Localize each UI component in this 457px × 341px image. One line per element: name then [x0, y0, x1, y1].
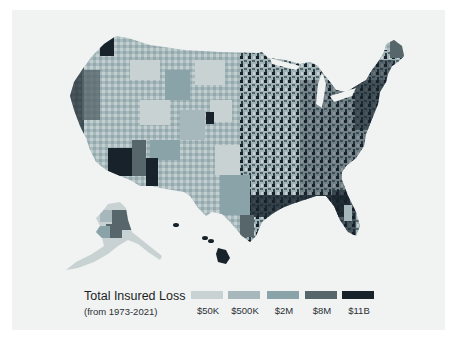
legend-item: $11B: [342, 291, 376, 316]
legend-swatch: [191, 291, 223, 299]
legend-label: $500K: [228, 305, 262, 316]
legend-subtitle: (from 1973-2021): [84, 306, 157, 317]
legend-item: $500K: [228, 291, 262, 316]
legend: Total Insured Loss (from 1973-2021) $50K…: [80, 287, 400, 327]
legend-label: $2M: [267, 305, 301, 316]
legend-label: $8M: [305, 305, 339, 316]
legend-item: $2M: [267, 291, 301, 316]
hawaii: [173, 223, 230, 264]
legend-label: $50K: [191, 305, 225, 316]
legend-swatch: [267, 291, 299, 299]
legend-title: Total Insured Loss: [84, 289, 185, 303]
legend-swatch: [342, 291, 374, 299]
legend-swatch: [228, 291, 260, 299]
legend-item: $8M: [305, 291, 339, 316]
legend-item: $50K: [191, 291, 225, 316]
alaska: [60, 200, 170, 275]
legend-label: $11B: [342, 305, 376, 316]
legend-swatch: [305, 291, 337, 299]
